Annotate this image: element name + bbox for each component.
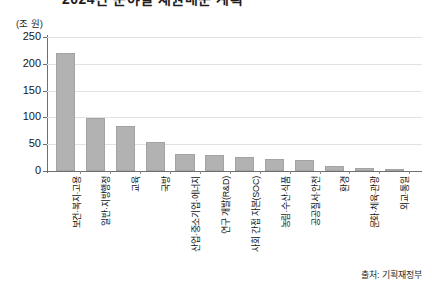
x-tick-mark [170, 171, 171, 174]
x-axis-line [47, 171, 422, 172]
y-axis-unit-label: (조 원) [16, 16, 43, 30]
x-category-label: 국방 [159, 176, 172, 192]
x-tick-mark [290, 171, 291, 174]
y-tick-mark [43, 144, 47, 145]
bar[interactable] [355, 168, 374, 171]
bar[interactable] [86, 118, 105, 171]
y-tick-mark [43, 37, 47, 38]
x-tick-mark [230, 171, 231, 174]
chart-canvas: 2024년 분야별 재원배분 계획 (조 원) 050100150200250 … [0, 0, 432, 295]
x-tick-mark [379, 171, 380, 174]
x-tick-mark [200, 171, 201, 174]
x-category-label: 농림·수산·식품 [279, 176, 292, 228]
x-category-label: 외교·통일 [398, 176, 411, 210]
y-tick-label: 200 [8, 57, 41, 69]
gridline [47, 91, 422, 92]
gridline [47, 64, 422, 65]
bar[interactable] [175, 154, 194, 171]
bar[interactable] [146, 142, 165, 171]
page-title: 2024년 분야별 재원배분 계획 [62, 0, 243, 8]
y-tick-label: 100 [8, 110, 41, 122]
x-category-label: 사회 간접 자본(SOC) [249, 176, 262, 252]
bar[interactable] [385, 169, 404, 171]
x-tick-mark [260, 171, 261, 174]
x-category-label: 공공질서·안전 [309, 176, 322, 226]
bar[interactable] [325, 166, 344, 171]
y-tick-label: 50 [8, 137, 41, 149]
bar[interactable] [235, 157, 254, 171]
x-tick-mark [110, 171, 111, 174]
plot-area [47, 37, 422, 171]
y-tick-mark [43, 117, 47, 118]
gridline [47, 37, 422, 38]
y-tick-mark [43, 171, 47, 172]
x-tick-mark [320, 171, 321, 174]
x-category-label: 교육 [129, 176, 142, 192]
x-tick-mark [349, 171, 350, 174]
x-category-label: 환경 [338, 176, 351, 192]
x-category-label: 산업·중소기업·에너지 [189, 176, 202, 252]
y-tick-mark [43, 64, 47, 65]
y-tick-label: 0 [8, 164, 41, 176]
x-category-label: 연구 개발(R&D) [219, 176, 232, 234]
bar[interactable] [116, 126, 135, 171]
x-category-label: 문화·체육·관광 [368, 176, 381, 228]
x-tick-mark [409, 171, 410, 174]
x-category-label: 일반·지방행정 [99, 176, 112, 226]
y-tick-mark [43, 91, 47, 92]
y-tick-label: 150 [8, 84, 41, 96]
x-tick-mark [80, 171, 81, 174]
bar[interactable] [265, 159, 284, 171]
source-note: 출처: 기획재정부 [361, 268, 422, 281]
bar[interactable] [205, 155, 224, 171]
bar[interactable] [56, 53, 75, 171]
clipped-title-strip: 2024년 분야별 재원배분 계획 [0, 0, 432, 12]
bar[interactable] [295, 160, 314, 171]
x-category-label: 보건·복지·고용 [70, 176, 83, 228]
y-tick-label: 250 [8, 30, 41, 42]
x-tick-mark [140, 171, 141, 174]
